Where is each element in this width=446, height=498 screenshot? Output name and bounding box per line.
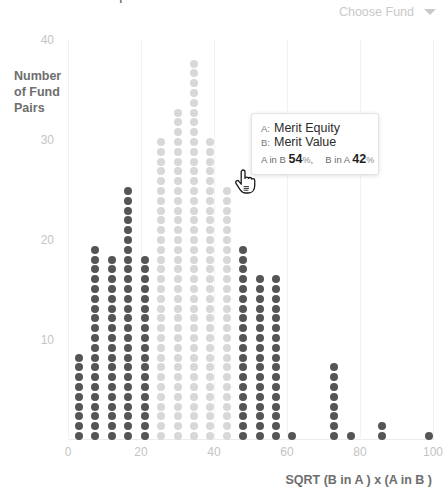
data-point-dot[interactable] xyxy=(223,314,231,322)
data-point-dot[interactable] xyxy=(272,324,280,332)
data-point-dot[interactable] xyxy=(108,344,116,352)
data-point-dot[interactable] xyxy=(124,256,132,264)
data-point-dot[interactable] xyxy=(223,265,231,273)
data-point-dot[interactable] xyxy=(378,432,386,440)
data-point-dot[interactable] xyxy=(141,285,149,293)
data-point-dot[interactable] xyxy=(190,197,198,205)
data-point-dot[interactable] xyxy=(157,432,165,440)
data-point-dot[interactable] xyxy=(108,265,116,273)
data-point-dot[interactable] xyxy=(239,256,247,264)
data-point-dot[interactable] xyxy=(124,187,132,195)
data-point-dot[interactable] xyxy=(157,285,165,293)
data-point-dot[interactable] xyxy=(272,383,280,391)
data-point-dot[interactable] xyxy=(174,324,182,332)
data-point-dot[interactable] xyxy=(174,236,182,244)
data-point-dot[interactable] xyxy=(256,295,264,303)
data-point-dot[interactable] xyxy=(174,412,182,420)
data-point-dot[interactable] xyxy=(190,187,198,195)
data-point-dot[interactable] xyxy=(141,383,149,391)
data-point-dot[interactable] xyxy=(174,383,182,391)
data-point-dot[interactable] xyxy=(174,363,182,371)
data-point-dot[interactable] xyxy=(190,89,198,97)
data-point-dot[interactable] xyxy=(157,226,165,234)
data-point-dot[interactable] xyxy=(141,354,149,362)
data-point-dot[interactable] xyxy=(223,216,231,224)
data-point-dot[interactable] xyxy=(223,324,231,332)
data-point-dot[interactable] xyxy=(108,305,116,313)
data-point-dot[interactable] xyxy=(190,256,198,264)
data-point-dot[interactable] xyxy=(190,334,198,342)
data-point-dot[interactable] xyxy=(91,334,99,342)
data-point-dot[interactable] xyxy=(75,373,83,381)
data-point-dot[interactable] xyxy=(190,314,198,322)
choose-fund-dropdown[interactable]: Choose Fund xyxy=(339,5,436,19)
data-point-dot[interactable] xyxy=(223,403,231,411)
data-point-dot[interactable] xyxy=(190,207,198,215)
data-point-dot[interactable] xyxy=(124,354,132,362)
data-point-dot[interactable] xyxy=(223,197,231,205)
data-point-dot[interactable] xyxy=(190,128,198,136)
data-point-dot[interactable] xyxy=(256,305,264,313)
data-point-dot[interactable] xyxy=(174,265,182,273)
data-point-dot[interactable] xyxy=(190,344,198,352)
data-point-dot[interactable] xyxy=(256,314,264,322)
data-point-dot[interactable] xyxy=(91,275,99,283)
data-point-dot[interactable] xyxy=(124,314,132,322)
data-point-dot[interactable] xyxy=(174,295,182,303)
data-point-dot[interactable] xyxy=(174,167,182,175)
data-point-dot[interactable] xyxy=(347,432,355,440)
data-point-dot[interactable] xyxy=(157,138,165,146)
data-point-dot[interactable] xyxy=(190,138,198,146)
data-point-dot[interactable] xyxy=(272,314,280,322)
data-point-dot[interactable] xyxy=(75,403,83,411)
data-point-dot[interactable] xyxy=(272,432,280,440)
data-point-dot[interactable] xyxy=(124,207,132,215)
data-point-dot[interactable] xyxy=(174,197,182,205)
data-point-dot[interactable] xyxy=(239,383,247,391)
data-point-dot[interactable] xyxy=(124,412,132,420)
data-point-dot[interactable] xyxy=(157,305,165,313)
data-point-dot[interactable] xyxy=(239,324,247,332)
data-point-dot[interactable] xyxy=(190,285,198,293)
data-point-dot[interactable] xyxy=(190,305,198,313)
data-point-dot[interactable] xyxy=(141,344,149,352)
data-point-dot[interactable] xyxy=(330,403,338,411)
data-point-dot[interactable] xyxy=(239,285,247,293)
data-point-dot[interactable] xyxy=(239,363,247,371)
data-point-dot[interactable] xyxy=(239,314,247,322)
data-point-dot[interactable] xyxy=(91,246,99,254)
data-point-dot[interactable] xyxy=(124,226,132,234)
data-point-dot[interactable] xyxy=(256,354,264,362)
data-point-dot[interactable] xyxy=(190,432,198,440)
data-point-dot[interactable] xyxy=(91,324,99,332)
data-point-dot[interactable] xyxy=(75,363,83,371)
data-point-dot[interactable] xyxy=(174,109,182,117)
data-point-dot[interactable] xyxy=(174,403,182,411)
data-point-dot[interactable] xyxy=(157,256,165,264)
data-point-dot[interactable] xyxy=(91,285,99,293)
data-point-dot[interactable] xyxy=(190,295,198,303)
data-point-dot[interactable] xyxy=(256,403,264,411)
data-point-dot[interactable] xyxy=(108,432,116,440)
data-point-dot[interactable] xyxy=(108,393,116,401)
data-point-dot[interactable] xyxy=(174,256,182,264)
data-point-dot[interactable] xyxy=(141,256,149,264)
data-point-dot[interactable] xyxy=(206,354,214,362)
data-point-dot[interactable] xyxy=(157,207,165,215)
data-point-dot[interactable] xyxy=(256,275,264,283)
data-point-dot[interactable] xyxy=(157,177,165,185)
data-point-dot[interactable] xyxy=(124,393,132,401)
data-point-dot[interactable] xyxy=(190,354,198,362)
data-point-dot[interactable] xyxy=(124,295,132,303)
data-point-dot[interactable] xyxy=(190,158,198,166)
data-point-dot[interactable] xyxy=(256,285,264,293)
data-point-dot[interactable] xyxy=(75,354,83,362)
data-point-dot[interactable] xyxy=(190,373,198,381)
data-point-dot[interactable] xyxy=(141,412,149,420)
data-point-dot[interactable] xyxy=(378,422,386,430)
data-point-dot[interactable] xyxy=(190,403,198,411)
data-point-dot[interactable] xyxy=(190,363,198,371)
data-point-dot[interactable] xyxy=(239,275,247,283)
data-point-dot[interactable] xyxy=(157,354,165,362)
data-point-dot[interactable] xyxy=(108,383,116,391)
